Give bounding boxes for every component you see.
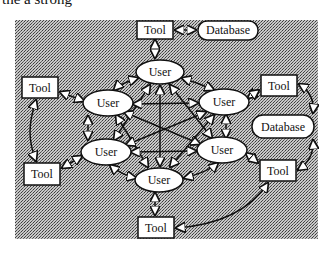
node-label: Database: [206, 23, 250, 37]
node-label: Tool: [31, 167, 53, 181]
node-tool-top: Tool: [137, 21, 173, 39]
node-label: User: [149, 65, 172, 79]
node-label: Tool: [145, 221, 167, 235]
node-label: Tool: [29, 81, 51, 95]
node-user-bottom: User: [135, 168, 183, 192]
node-user-right-top: User: [199, 89, 249, 115]
node-label: Tool: [268, 79, 290, 93]
node-tool-left-bottom: Tool: [24, 163, 60, 185]
node-tool-left-top: Tool: [22, 77, 58, 98]
node-label: User: [97, 96, 120, 110]
node-database-right: Database: [252, 115, 314, 138]
node-label: User: [95, 145, 118, 159]
node-user-left-bottom: User: [81, 139, 131, 165]
node-user-left-top: User: [83, 90, 133, 116]
edge-user-left-bottom-user-right-bottom: [131, 151, 196, 152]
diagram-canvas: Tool Database User User User User User: [0, 0, 330, 255]
node-label: Tool: [144, 23, 166, 37]
node-label: Tool: [267, 164, 289, 178]
node-label: User: [148, 173, 171, 187]
edge-user-left-top-user-right-top: [133, 103, 198, 104]
node-database-top: Database: [198, 21, 258, 40]
node-user-right-bottom: User: [197, 137, 247, 163]
node-label: User: [213, 95, 236, 109]
node-tool-bottom: Tool: [138, 217, 174, 238]
node-tool-right-bottom: Tool: [260, 160, 296, 181]
node-tool-right-top: Tool: [261, 75, 297, 96]
node-label: Database: [261, 120, 305, 134]
node-user-top: User: [136, 60, 184, 84]
node-label: User: [211, 143, 234, 157]
